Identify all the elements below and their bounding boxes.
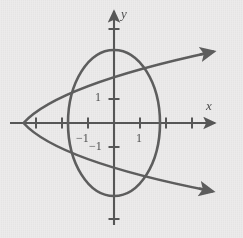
x-tick-label-minus-1: −1 — [76, 131, 89, 146]
y-tick-label-plus-1: 1 — [95, 90, 101, 105]
y-axis — [109, 11, 120, 225]
x-axis — [10, 118, 215, 129]
parabola-lower-arrow — [199, 189, 213, 192]
graph-figure: x y −1 1 1 −1 — [0, 0, 243, 238]
x-axis-label: x — [206, 98, 212, 114]
parabola-curve — [24, 52, 213, 191]
coordinate-plot — [0, 0, 243, 238]
y-tick-label-minus-1: −1 — [89, 139, 102, 154]
parabola-upper-arrow — [200, 52, 214, 55]
x-tick-label-plus-1: 1 — [136, 131, 142, 146]
y-axis-label: y — [121, 6, 127, 22]
